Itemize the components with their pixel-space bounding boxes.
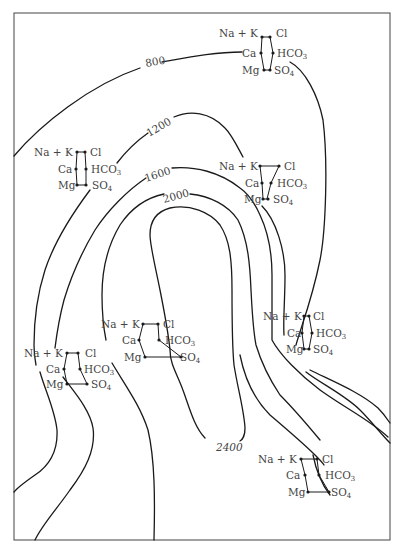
svg-text:SO4: SO4 [274,64,295,78]
svg-text:Ca: Ca [242,47,256,59]
contour-1200-c [262,206,390,443]
svg-text:SO4: SO4 [313,343,334,357]
svg-text:HCO3: HCO3 [84,363,114,377]
stiff-diagram-bottom-right: Na + K Cl Ca HCO3 Mg SO4 [258,453,355,500]
svg-text:Cl: Cl [284,160,296,172]
svg-text:SO4: SO4 [331,486,352,500]
svg-text:Na + K: Na + K [34,146,73,158]
svg-text:Ca: Ca [122,334,136,346]
contour-2000-a [102,194,164,540]
contour-800 [14,52,390,423]
svg-text:Mg: Mg [286,343,304,355]
contour-1200-b [14,190,90,492]
svg-text:Mg: Mg [242,64,260,76]
svg-text:HCO3: HCO3 [316,327,346,341]
svg-text:SO4: SO4 [180,351,201,365]
contour-label-1600: 1600 [143,164,172,184]
svg-text:Cl: Cl [313,310,325,322]
svg-text:Mg: Mg [58,179,76,191]
svg-text:SO4: SO4 [92,179,113,193]
contour-label-2000: 2000 [161,186,190,205]
contour-label-2400: 2400 [215,441,243,453]
stiff-diagram-right-middle: Na + K Cl Ca HCO3 Mg SO4 [263,310,346,357]
map-frame [14,13,390,540]
svg-text:Mg: Mg [244,193,262,205]
contour-map: 800 1200 1600 2000 2400 Na + K Cl Ca HCO… [0,0,400,552]
contour-2400-b [240,355,324,465]
svg-text:Na + K: Na + K [258,453,297,465]
svg-text:Na + K: Na + K [24,347,63,359]
svg-text:Na + K: Na + K [219,27,258,39]
svg-text:HCO3: HCO3 [277,177,307,191]
svg-text:Na + K: Na + K [263,310,302,322]
svg-text:Ca: Ca [58,163,72,175]
svg-text:Cl: Cl [85,347,97,359]
svg-text:Ca: Ca [46,363,60,375]
svg-text:HCO3: HCO3 [325,469,355,483]
svg-text:Cl: Cl [163,318,175,330]
svg-text:Ca: Ca [287,327,301,339]
contour-label-800: 800 [144,54,166,69]
svg-text:Cl: Cl [322,453,334,465]
svg-text:Mg: Mg [124,351,142,363]
svg-text:Cl: Cl [90,146,102,158]
svg-text:SO4: SO4 [273,193,294,207]
svg-text:Mg: Mg [288,486,306,498]
svg-text:SO4: SO4 [91,378,112,392]
svg-text:Ca: Ca [245,177,259,189]
stiff-diagram-upper-left: Na + K Cl Ca HCO3 Mg SO4 [34,146,121,193]
contour-label-1200: 1200 [144,115,173,139]
svg-text:Na + K: Na + K [101,318,140,330]
svg-text:Ca: Ca [286,469,300,481]
stiff-diagram-middle-center: Na + K Cl Ca HCO3 Mg SO4 [101,318,201,365]
stiff-diagram-center-right: Na + K Cl Ca HCO3 Mg SO4 [219,160,307,207]
svg-text:Cl: Cl [276,27,288,39]
svg-text:Na + K: Na + K [219,160,258,172]
svg-text:HCO3: HCO3 [277,47,307,61]
contour-1200-a [117,113,243,163]
svg-text:HCO3: HCO3 [91,163,121,177]
svg-text:HCO3: HCO3 [165,334,195,348]
contour-1600-b [172,168,388,437]
svg-text:Mg: Mg [46,378,64,390]
